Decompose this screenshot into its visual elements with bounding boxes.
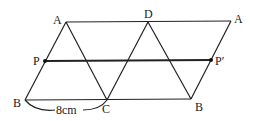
label-B-right: B [195, 100, 203, 114]
geometry-diagram: A D A P P′ B C B 8cm [0, 0, 254, 121]
point-P-prime [209, 58, 213, 62]
label-D: D [144, 7, 153, 21]
label-P: P [33, 54, 40, 68]
label-A-right: A [234, 12, 243, 26]
segment-P-P-prime [45, 60, 211, 61]
measure-arc [25, 100, 55, 110]
label-C: C [102, 102, 110, 116]
label-P-prime: P′ [215, 54, 225, 68]
point-P [43, 59, 47, 63]
label-measure: 8cm [56, 103, 77, 117]
label-B-left: B [13, 96, 21, 110]
label-A-left: A [53, 13, 62, 27]
